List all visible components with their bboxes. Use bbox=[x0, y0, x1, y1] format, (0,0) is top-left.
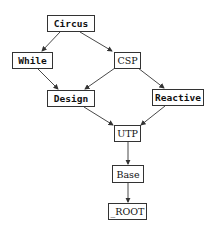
graph-edges bbox=[0, 0, 216, 231]
node-label: Design bbox=[54, 93, 88, 104]
node-reactive: Reactive bbox=[152, 89, 204, 106]
node-label: Reactive bbox=[155, 92, 201, 103]
edge-circus-csp bbox=[80, 32, 112, 51]
edge-circus-while bbox=[42, 32, 60, 51]
node-label: CSP bbox=[117, 55, 137, 66]
node-label: While bbox=[18, 55, 47, 66]
node-label: _ROOT bbox=[111, 206, 145, 217]
edge-while-design bbox=[38, 69, 58, 89]
node-root: _ROOT bbox=[108, 203, 147, 220]
dependency-graph: Circus While CSP Design Reactive UTP Bas… bbox=[0, 0, 216, 231]
node-csp: CSP bbox=[114, 52, 141, 69]
node-label: UTP bbox=[117, 128, 138, 139]
node-label: Circus bbox=[54, 18, 88, 29]
edge-csp-design bbox=[85, 68, 115, 89]
edge-design-utp bbox=[84, 107, 113, 125]
node-while: While bbox=[12, 52, 53, 69]
node-circus: Circus bbox=[47, 15, 95, 32]
node-design: Design bbox=[47, 90, 95, 107]
edge-reactive-utp bbox=[141, 106, 165, 125]
node-base: Base bbox=[112, 165, 144, 183]
node-utp: UTP bbox=[114, 125, 141, 142]
node-label: Base bbox=[116, 169, 139, 180]
edge-csp-reactive bbox=[138, 68, 164, 88]
